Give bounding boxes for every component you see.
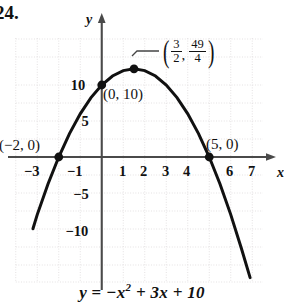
label-point-0-10: (0, 10) [103, 86, 143, 103]
y-tick-5: 5 [81, 113, 88, 129]
x-tick-4: 4 [183, 163, 190, 179]
x-tick-neg1: −1 [67, 163, 83, 179]
x-tick-neg3: −3 [24, 163, 40, 179]
equation-term2: + 3x [136, 283, 168, 302]
vertex-leader-line [132, 51, 159, 56]
equation-lhs: y [79, 283, 87, 302]
x-axis [8, 153, 276, 161]
x-tick-6: 6 [226, 163, 233, 179]
x-tick-7: 7 [248, 163, 255, 179]
vertex-close-paren: ) [208, 39, 214, 64]
y-axis [98, 13, 106, 290]
label-vertex: ( 3 2 , 49 4 ) [161, 38, 216, 65]
graph-canvas: y x −3 −1 1 2 3 4 6 7 10 5 −5 −10 (−2, 0… [0, 0, 284, 307]
y-tick-neg10: −10 [66, 223, 89, 239]
vertex-x-denominator: 2 [171, 51, 181, 65]
grid-lines [16, 38, 263, 282]
equation-exponent: 2 [126, 281, 132, 293]
y-tick-10: 10 [71, 77, 86, 93]
vertex-y-numerator: 49 [189, 38, 206, 51]
equation-equals: = [92, 283, 102, 302]
point-vertex [130, 64, 139, 73]
label-point-neg2-0: (−2, 0) [0, 137, 40, 154]
point-x-intercept-5 [205, 153, 214, 162]
equation-term3: + 10 [173, 283, 205, 302]
x-tick-1: 1 [119, 163, 126, 179]
x-tick-2: 2 [140, 163, 147, 179]
y-axis-label: y [84, 12, 93, 27]
vertex-y-denominator: 4 [189, 51, 206, 65]
equation-term1: −x [106, 283, 125, 302]
point-x-intercept-neg2 [54, 153, 63, 162]
vertex-x-fraction: 3 2 [171, 38, 181, 65]
y-tick-neg5: −5 [73, 186, 89, 202]
vertex-open-paren: ( [163, 39, 169, 64]
parabola-figure: 24. [0, 0, 284, 307]
x-tick-3: 3 [162, 163, 169, 179]
x-axis-label: x [276, 165, 284, 180]
vertex-comma: , [182, 47, 186, 65]
vertex-y-fraction: 49 4 [189, 38, 206, 65]
equation-caption: y = −x2 + 3x + 10 [0, 281, 284, 303]
vertex-x-numerator: 3 [171, 38, 181, 51]
label-point-5-0: (5, 0) [206, 136, 239, 153]
